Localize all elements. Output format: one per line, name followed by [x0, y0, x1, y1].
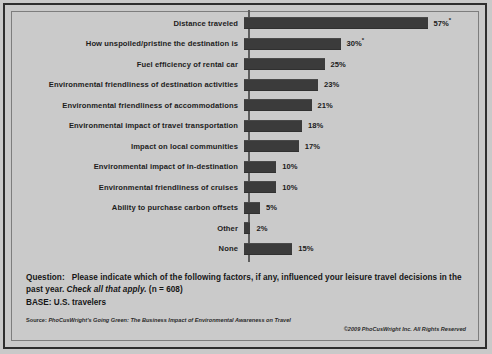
bar-row: Ability to purchase carbon offsets5% [12, 198, 474, 218]
bar-value-label: 15% [298, 244, 313, 253]
bar-value-text: 5% [266, 203, 277, 212]
bar-track: 30%* [244, 34, 474, 54]
chart-screenshot: Distance traveled57%*How unspoiled/prist… [0, 0, 492, 354]
bar-value-text: 57% [434, 19, 449, 28]
bar-row: Impact on local communities17% [12, 136, 474, 156]
bar-row: Environmental impact of travel transport… [12, 116, 474, 136]
bar-track: 5% [244, 198, 474, 218]
bar [244, 202, 260, 214]
bar-category-label: Fuel efficiency of rental car [12, 60, 244, 69]
bar-value-label: 17% [305, 142, 320, 151]
bar-category-label: How unspoiled/pristine the destination i… [12, 39, 244, 48]
bar-track: 57%* [244, 13, 474, 33]
bar-track: 23% [244, 75, 474, 95]
bar-value-text: 10% [282, 183, 297, 192]
source-text: PhoCusWright's Going Green: The Business… [48, 317, 290, 323]
bar-row: Fuel efficiency of rental car25% [12, 54, 474, 74]
bar [244, 79, 318, 91]
question-n: (n = 608) [149, 285, 183, 294]
bar-track: 10% [244, 177, 474, 197]
bar-category-label: Environmental friendliness of accommodat… [12, 101, 244, 110]
bar-row: None15% [12, 239, 474, 259]
bar [244, 140, 299, 152]
bar-track: 2% [244, 218, 474, 238]
bar-value-label: 5% [266, 203, 277, 212]
bar-category-label: Environmental friendliness of destinatio… [12, 80, 244, 89]
bar-category-label: None [12, 244, 244, 253]
bar [244, 181, 276, 193]
bar-value-text: 30% [347, 39, 362, 48]
bar-track: 10% [244, 157, 474, 177]
bar [244, 161, 276, 173]
bar-category-label: Distance traveled [12, 19, 244, 28]
bar-row: Other2% [12, 218, 474, 238]
chart-footer: Question: Please indicate which of the f… [26, 272, 466, 324]
base-line: BASE: U.S. travelers [26, 296, 466, 309]
bar-value-label: 2% [256, 224, 267, 233]
bar [244, 120, 302, 132]
bar [244, 99, 312, 111]
bar-value-label: 57%* [434, 19, 452, 28]
bar-track: 18% [244, 116, 474, 136]
bar-value-text: 21% [318, 101, 333, 110]
bar-value-text: 2% [256, 224, 267, 233]
bar-category-label: Environmental impact of travel transport… [12, 121, 244, 130]
bar-value-label: 23% [324, 80, 339, 89]
question-line: Question: Please indicate which of the f… [26, 272, 466, 295]
bar-row: Distance traveled57%* [12, 13, 474, 33]
bar-row: Environmental friendliness of cruises10% [12, 177, 474, 197]
bar-value-text: 10% [282, 162, 297, 171]
bar [244, 243, 292, 255]
bar [244, 38, 341, 50]
bar-category-label: Environmental impact of in-destination [12, 162, 244, 171]
bar-category-label: Impact on local communities [12, 142, 244, 151]
bar-value-label: 30%* [347, 39, 365, 48]
bar-row: Environmental friendliness of destinatio… [12, 75, 474, 95]
question-italic: Check all that apply. [67, 285, 147, 294]
bar-track: 25% [244, 54, 474, 74]
bar [244, 58, 325, 70]
bar-category-label: Other [12, 224, 244, 233]
bar-row: Environmental impact of in-destination10… [12, 157, 474, 177]
bar-value-label: 18% [308, 121, 323, 130]
horizontal-bar-chart: Distance traveled57%*How unspoiled/prist… [12, 8, 474, 262]
bar-value-label: 25% [331, 60, 346, 69]
source-line: Source: PhoCusWright's Going Green: The … [26, 316, 466, 324]
bar-value-text: 18% [308, 121, 323, 130]
copyright-notice: ©2009 PhoCusWright Inc. All Rights Reser… [344, 326, 466, 332]
bar-track: 21% [244, 95, 474, 115]
bar [244, 222, 250, 234]
bar [244, 17, 428, 29]
bar-value-label: 21% [318, 101, 333, 110]
bar-track: 15% [244, 239, 474, 259]
bar-value-label: 10% [282, 183, 297, 192]
bar-value-text: 15% [298, 244, 313, 253]
bar-category-label: Environmental friendliness of cruises [12, 183, 244, 192]
bar-value-label: 10% [282, 162, 297, 171]
bar-category-label: Ability to purchase carbon offsets [12, 203, 244, 212]
bar-value-text: 25% [331, 60, 346, 69]
bar-value-text: 23% [324, 80, 339, 89]
question-label: Question: [26, 273, 65, 282]
bar-row: Environmental friendliness of accommodat… [12, 95, 474, 115]
bar-track: 17% [244, 136, 474, 156]
bar-value-text: 17% [305, 142, 320, 151]
bar-value-footnote-marker: * [449, 17, 451, 23]
source-label: Source: [26, 317, 47, 323]
bar-value-footnote-marker: * [362, 37, 364, 43]
bar-row: How unspoiled/pristine the destination i… [12, 34, 474, 54]
